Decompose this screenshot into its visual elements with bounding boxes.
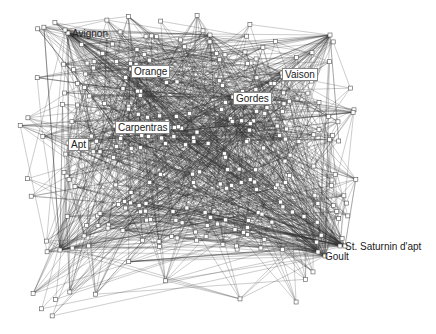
node-label-carpentras[interactable]: Carpentras [115, 121, 170, 134]
node-label-goult[interactable]: Goult [325, 251, 349, 262]
node-label-vaison[interactable]: Vaison [282, 68, 318, 81]
node-label-orange[interactable]: Orange [131, 65, 170, 78]
node-label-gordes[interactable]: Gordes [233, 92, 272, 105]
graph-edges [20, 16, 356, 316]
node-label-apt[interactable]: Apt [68, 138, 89, 151]
node-label-avignon[interactable]: Avignon [72, 28, 108, 39]
node-label-st-saturnin[interactable]: St. Saturnin d'apt [345, 241, 421, 252]
network-graph [0, 0, 436, 334]
